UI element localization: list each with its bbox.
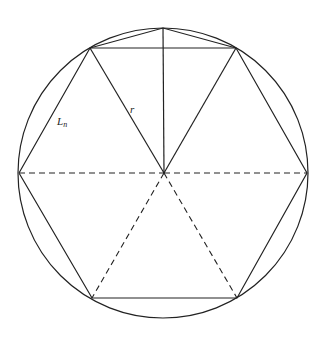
- apothem-line: [163, 28, 164, 173]
- radius-r: [90, 48, 164, 173]
- radius-label: r: [130, 103, 135, 115]
- dashed-radius-lower-right: [164, 173, 237, 298]
- hexagon-diagram: Ln r: [0, 0, 326, 337]
- dashed-radius-lower-left: [92, 173, 164, 298]
- radius-upper-right: [164, 48, 236, 173]
- side-label: Ln: [56, 115, 67, 129]
